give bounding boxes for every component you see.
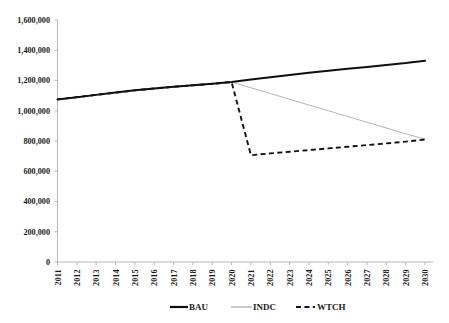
x-axis-tick-label: 2014 [112, 270, 121, 286]
x-axis-tick-label: 2011 [54, 270, 63, 286]
x-axis-tick-label: 2017 [170, 270, 179, 286]
chart-canvas: 0200,000400,000600,000800,0001,000,0001,… [0, 0, 449, 323]
y-axis-tick-label: 600,000 [23, 167, 50, 176]
x-axis-tick-label: 2026 [344, 270, 353, 286]
x-axis-tick-label: 2021 [247, 270, 256, 286]
x-axis-tick-label: 2023 [286, 270, 295, 286]
x-axis-tick-label: 2022 [266, 270, 275, 286]
x-axis-tick-label: 2029 [402, 270, 411, 286]
series-line-indc [58, 82, 426, 139]
x-axis-tick-labels: 2011201220132014201520162017201820192020… [54, 270, 431, 286]
y-axis-tick-label: 200,000 [23, 228, 50, 237]
y-axis-tick-label: 400,000 [23, 197, 50, 206]
x-axis-tick-label: 2020 [228, 270, 237, 286]
legend-label-wtch: WTCH [317, 302, 346, 312]
y-axis-tick-label: 0 [46, 258, 50, 267]
legend-label-bau: BAU [189, 302, 209, 312]
x-axis-tick-label: 2016 [150, 270, 159, 286]
x-axis-tick-label: 2013 [92, 270, 101, 286]
x-axis-tick-label: 2015 [131, 270, 140, 286]
x-axis-tick-label: 2027 [363, 270, 372, 286]
y-axis-tick-label: 1,400,000 [17, 46, 50, 55]
x-axis-tick-label: 2028 [382, 270, 391, 286]
y-axis-tick-labels: 0200,000400,000600,000800,0001,000,0001,… [17, 16, 50, 267]
x-axis-tick-marks [58, 262, 426, 265]
x-axis-tick-label: 2025 [324, 270, 333, 286]
series-line-bau [58, 61, 426, 100]
legend-label-indc: INDC [253, 302, 276, 312]
x-axis-tick-label: 2024 [305, 270, 314, 286]
x-axis-tick-label: 2012 [73, 270, 82, 286]
y-axis-tick-label: 1,600,000 [17, 16, 50, 25]
line-chart-figure: 0200,000400,000600,000800,0001,000,0001,… [0, 0, 449, 323]
x-axis-tick-label: 2019 [208, 270, 217, 286]
y-axis-tick-label: 1,200,000 [17, 76, 50, 85]
y-axis-tick-label: 1,000,000 [17, 107, 50, 116]
y-axis-tick-label: 800,000 [23, 137, 50, 146]
x-axis-tick-label: 2030 [421, 270, 430, 286]
chart-legend: BAU INDC WTCH [170, 302, 346, 312]
x-axis-tick-label: 2018 [189, 270, 198, 286]
